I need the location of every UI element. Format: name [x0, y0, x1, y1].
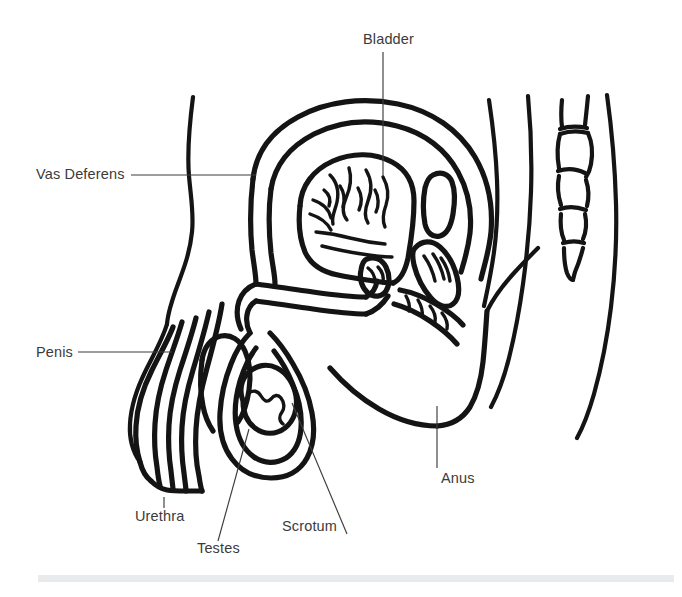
- coccyx-tip-left: [564, 248, 573, 280]
- male-reproductive-system-diagram: Bladder Vas Deferens Penis Urethra Teste…: [0, 0, 682, 597]
- vas-deferens-upper: [256, 284, 366, 297]
- bladder-rugae-7: [316, 232, 385, 244]
- label-vas-deferens: Vas Deferens: [36, 166, 125, 182]
- pelvic-cavity-inner-left: [269, 189, 275, 284]
- sacrum-prong-left: [561, 100, 562, 127]
- label-urethra: Urethra: [135, 508, 185, 524]
- sacrum-segment-2-left: [558, 176, 561, 205]
- sacrum-segment-3-left: [561, 214, 564, 240]
- sacrum-segment-1-top: [560, 132, 588, 134]
- label-scrotum: Scrotum: [282, 518, 337, 534]
- sacrum-segment-3-right: [583, 214, 586, 239]
- diagram-page: Bladder Vas Deferens Penis Urethra Teste…: [0, 0, 682, 597]
- label-bladder: Bladder: [363, 31, 414, 47]
- label-anus: Anus: [441, 470, 475, 486]
- coccyx-tip-right: [573, 248, 583, 280]
- back-contour-outer: [577, 95, 616, 438]
- pelvic-cavity-outer-left: [251, 179, 256, 284]
- abdominal-wall-front: [167, 97, 193, 324]
- sacrum-segment-2-right: [586, 180, 588, 206]
- vas-deferens-lower: [256, 301, 366, 314]
- penis-glans-left: [140, 462, 151, 481]
- epididymis: [248, 391, 284, 424]
- footer-divider-bar: [38, 575, 674, 582]
- bladder-rugae-8: [322, 246, 392, 257]
- perineum-contour: [330, 368, 437, 426]
- sacrum-joint-3: [560, 207, 586, 210]
- buttock-contour: [437, 311, 487, 426]
- sacrum-joint-4: [563, 242, 584, 244]
- bladder-rugae-4: [383, 177, 388, 227]
- sacrum-segment-1-left: [558, 134, 560, 168]
- spermatic-cord-inner: [247, 301, 256, 333]
- bladder-rugae-10: [358, 188, 361, 210]
- bladder-rugae-3: [365, 170, 370, 223]
- label-penis: Penis: [36, 344, 73, 360]
- back-contour-mid: [491, 96, 531, 407]
- rectum-fold-4: [442, 313, 447, 329]
- bladder-rugae-11: [375, 190, 378, 212]
- seminal-vesicle-fold-1: [424, 256, 435, 281]
- pubic-bone: [424, 173, 455, 236]
- bladder-rugae-9: [340, 186, 344, 207]
- bladder-rugae-6: [310, 214, 331, 230]
- sacrum-prong-right: [585, 96, 588, 125]
- sacrum-segment-1-right: [586, 133, 592, 177]
- bladder-rugae-12: [324, 190, 330, 206]
- sacrum-joint-1: [560, 127, 587, 129]
- sacrum-joint-2: [558, 169, 585, 173]
- label-testes: Testes: [197, 540, 240, 556]
